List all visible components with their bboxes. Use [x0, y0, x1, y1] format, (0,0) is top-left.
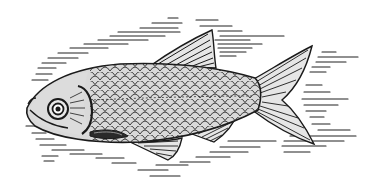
fish-eye: [48, 99, 68, 119]
fish-illustration: [0, 0, 369, 186]
